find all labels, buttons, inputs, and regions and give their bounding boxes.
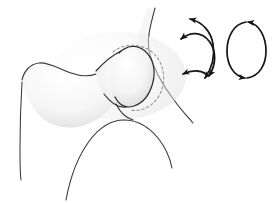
anatomical-figure-container: Hip joint range of motion diagram <box>0 0 274 203</box>
hip-joint-diagram-svg: Hip joint range of motion diagram <box>0 0 274 203</box>
